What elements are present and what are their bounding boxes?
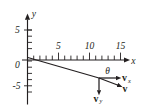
vector-diagram-figure: 5 0 -5 y <box>0 0 142 112</box>
y-axis-label: y <box>31 8 37 19</box>
vector-v-arrow <box>99 78 118 85</box>
y-ticklabel-5: 5 <box>15 24 20 35</box>
y-axis: 5 0 -5 y <box>13 8 37 105</box>
vector-triad <box>99 78 118 91</box>
x-axis: 5 10 15 x <box>22 40 136 66</box>
vy-label-subscript: y <box>99 97 103 104</box>
v-label: v <box>123 83 128 94</box>
x-ticklabel-5: 5 <box>56 40 61 51</box>
vector-diagram-canvas: 5 0 -5 y <box>0 0 142 112</box>
y-ticklabel-0: 0 <box>15 59 20 70</box>
vy-label: v y <box>94 93 103 105</box>
vx-label-subscript: x <box>127 77 131 84</box>
x-ticklabel-10: 10 <box>85 40 95 51</box>
theta-label: θ <box>105 66 110 76</box>
vy-label-base: v <box>94 93 99 104</box>
x-axis-ticks <box>34 53 121 60</box>
x-axis-label: x <box>130 55 136 66</box>
y-ticklabel-neg5: -5 <box>13 80 21 91</box>
x-ticklabel-15: 15 <box>116 40 126 51</box>
vx-label-base: v <box>122 72 127 83</box>
